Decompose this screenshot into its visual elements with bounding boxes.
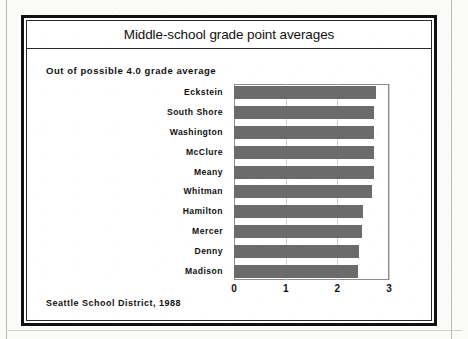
category-label-hamilton: Hamilton — [87, 205, 230, 218]
x-axis-tick-labels: 0123 — [234, 283, 389, 299]
bar-eckstein — [234, 86, 376, 99]
bar-row — [234, 86, 389, 99]
category-label-madison: Madison — [87, 265, 230, 278]
chart-frame-inner: Middle-school grade point averages Out o… — [26, 20, 432, 321]
bar-row — [234, 245, 389, 258]
bar-row — [234, 106, 389, 119]
bar-whitman — [234, 185, 372, 198]
bar-washington — [234, 126, 374, 139]
category-label-south-shore: South Shore — [87, 106, 230, 119]
category-label-mercer: Mercer — [87, 225, 230, 238]
scanned-page: Middle-school grade point averages Out o… — [0, 0, 468, 339]
bar-hamilton — [234, 205, 363, 218]
chart-subtitle: Out of possible 4.0 grade average — [46, 65, 216, 76]
chart-footnote: Seattle School District, 1988 — [46, 298, 181, 308]
x-tick-label-2: 2 — [335, 283, 341, 294]
bar-denny — [234, 245, 359, 258]
bar-mcclure — [234, 146, 374, 159]
x-tick-label-1: 1 — [283, 283, 289, 294]
category-label-washington: Washington — [87, 126, 230, 139]
x-tick-label-3: 3 — [386, 283, 392, 294]
bar-row — [234, 205, 389, 218]
category-label-meany: Meany — [87, 166, 230, 179]
category-label-eckstein: Eckstein — [87, 86, 230, 99]
bar-south-shore — [234, 106, 374, 119]
category-label-mcclure: McClure — [87, 146, 230, 159]
page-edge-rule-left — [6, 0, 7, 339]
bar-row — [234, 146, 389, 159]
bar-madison — [234, 265, 358, 278]
bar-mercer — [234, 225, 362, 238]
bar-meany — [234, 166, 374, 179]
category-axis-labels: EcksteinSouth ShoreWashingtonMcClureMean… — [87, 84, 230, 280]
page-edge-rule-right — [451, 0, 452, 339]
gridline-x-3 — [389, 84, 390, 280]
bar-row — [234, 166, 389, 179]
chart-frame: Middle-school grade point averages Out o… — [21, 15, 437, 326]
bar-row — [234, 126, 389, 139]
chart-title-band: Middle-school grade point averages — [27, 21, 431, 49]
bar-row — [234, 185, 389, 198]
plot-area — [234, 84, 389, 280]
chart-title: Middle-school grade point averages — [124, 27, 334, 42]
page-edge-rule-bottom — [6, 330, 462, 331]
bar-row — [234, 225, 389, 238]
bar-series — [234, 84, 389, 280]
category-label-whitman: Whitman — [87, 185, 230, 198]
bar-row — [234, 265, 389, 278]
x-tick-label-0: 0 — [231, 283, 237, 294]
category-label-denny: Denny — [87, 245, 230, 258]
